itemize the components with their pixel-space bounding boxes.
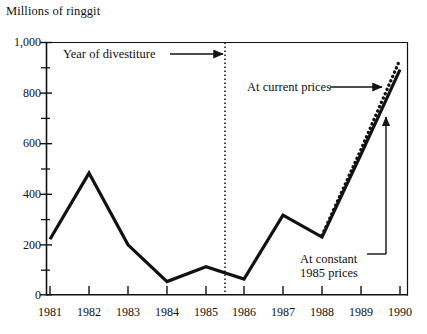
chart-figure: Millions of ringgit 1,000 800 600 400 20… <box>0 0 427 334</box>
y-minor-ticks <box>41 68 50 270</box>
chart-canvas <box>0 0 427 334</box>
series-at-current-prices <box>322 60 400 236</box>
